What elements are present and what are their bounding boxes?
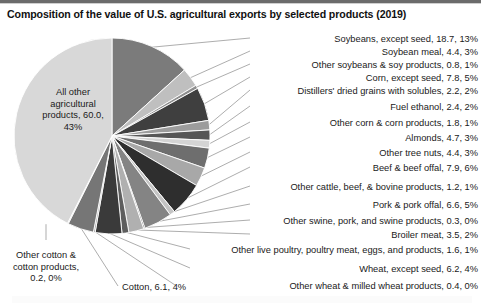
slice-label-distillers-dried-grains: Distillers' dried grains with solubles, … <box>297 86 478 97</box>
label-line: products, 60.0, <box>25 110 121 122</box>
slice-label-all-other-agricultural-products: All otheragriculturalproducts, 60.0,43% <box>25 87 121 133</box>
pie-slices-group: Soybeans, except seed, 18.7, 13%Soybean … <box>14 38 210 234</box>
slice-label-corn-except-seed: Corn, except seed, 7.8, 5% <box>366 73 478 84</box>
label-line: cotton products, <box>4 262 88 274</box>
label-line: 0.2, 0% <box>4 273 88 285</box>
slice-label-beef-beef-offal: Beef & beef offal, 7.9, 6% <box>373 163 478 174</box>
leader-line <box>136 230 250 234</box>
slice-label-fuel-ethanol: Fuel ethanol, 2.4, 2% <box>390 102 478 113</box>
page-title: Composition of the value of U.S. agricul… <box>7 8 406 20</box>
slice-label-other-wheat-milled: Other wheat & milled wheat products, 0.4… <box>289 281 478 292</box>
leader-line <box>125 232 190 249</box>
slice-label-other-tree-nuts: Other tree nuts, 4.4, 3% <box>379 148 478 159</box>
bottom-ghost-text <box>12 296 472 303</box>
leader-line <box>196 64 250 87</box>
label-line: agricultural <box>25 99 121 111</box>
label-line: All other <box>25 87 121 99</box>
slice-label-other-swine-pork: Other swine, pork, and swine products, 0… <box>283 216 478 227</box>
slice-label-soybeans-except-seed: Soybeans, except seed, 18.7, 13% <box>334 34 478 45</box>
slice-label-wheat-except-seed: Wheat, except seed, 6.2, 4% <box>359 264 478 275</box>
chart-page: Composition of the value of U.S. agricul… <box>0 0 481 305</box>
slice-label-other-cotton-cotton-products: Other cotton &cotton products,0.2, 0% <box>4 250 88 285</box>
slice-label-pork-pork-offal: Pork & pork offal, 6.6, 5% <box>373 200 478 211</box>
slice-label-broiler-meat: Broiler meat, 3.5, 2% <box>391 230 478 241</box>
label-line: 43% <box>25 122 121 134</box>
slice-label-cotton: Cotton, 6.1, 4% <box>122 282 186 293</box>
pie-chart-plot-area: Soybeans, except seed, 18.7, 13%Soybean … <box>0 24 481 294</box>
leader-line <box>94 231 175 285</box>
label-line: Other cotton & <box>4 250 88 262</box>
leader-line <box>190 51 250 78</box>
slice-label-other-live-poultry: Other live poultry, poultry meat, eggs, … <box>231 245 478 256</box>
slice-label-other-cattle-beef-bovine: Other cattle, beef, & bovine products, 1… <box>290 182 478 193</box>
slice-label-other-soybeans-soy-products: Other soybeans & soy products, 0.8, 1% <box>312 60 478 71</box>
leader-line <box>209 106 250 135</box>
slice-label-soybean-meal: Soybean meal, 4.4, 3% <box>382 47 478 58</box>
slice-label-other-corn-corn-products: Other corn & corn products, 1.8, 1% <box>330 118 478 129</box>
leader-line <box>209 122 250 144</box>
slice-label-almonds: Almonds, 4.7, 3% <box>405 133 478 144</box>
top-border-rule-secondary <box>0 3 481 4</box>
leader-line <box>151 38 250 47</box>
leader-line <box>208 90 250 125</box>
